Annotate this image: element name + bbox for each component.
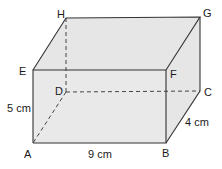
front-face bbox=[33, 70, 166, 143]
vertex-label-c: C bbox=[204, 86, 212, 98]
width-label: 4 cm bbox=[185, 116, 209, 128]
length-label: 9 cm bbox=[88, 148, 112, 160]
vertex-label-a: A bbox=[24, 148, 32, 160]
height-label: 5 cm bbox=[7, 102, 31, 114]
vertex-label-b: B bbox=[162, 147, 169, 159]
cuboid-diagram: H G E F D C A B 5 cm 9 cm 4 cm bbox=[0, 0, 222, 169]
vertex-label-h: H bbox=[57, 8, 65, 20]
vertex-label-e: E bbox=[19, 65, 26, 77]
vertex-label-d: D bbox=[55, 85, 63, 97]
vertex-label-f: F bbox=[170, 68, 177, 80]
vertex-label-g: G bbox=[203, 7, 212, 19]
